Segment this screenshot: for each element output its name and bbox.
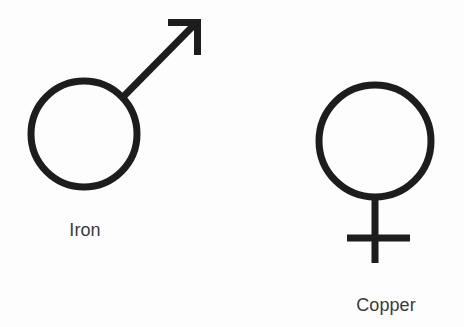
venus-circle [319,85,431,197]
venus-symbol-icon [319,85,431,263]
alchemical-symbols-figure: Iron Copper [0,0,464,327]
mars-circle [31,81,137,187]
mars-arrow-shaft [123,25,194,97]
figure-canvas: Iron Copper [0,0,464,327]
mars-symbol-icon [31,23,198,188]
mars-symbol-label: Iron [69,220,100,240]
venus-symbol-label: Copper [356,295,416,315]
